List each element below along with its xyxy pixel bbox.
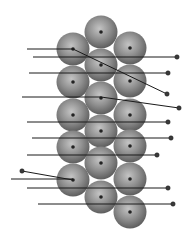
sphere-atom xyxy=(85,82,118,115)
sphere-center-dot xyxy=(71,80,75,84)
sphere-atom xyxy=(85,49,118,82)
leader-end-dot xyxy=(177,106,181,110)
sphere-atom xyxy=(114,99,147,132)
sphere-center-dot xyxy=(128,210,132,214)
sphere-packing-diagram xyxy=(0,0,189,240)
sphere-center-dot xyxy=(71,113,75,117)
sphere-center-dot xyxy=(128,113,132,117)
sphere-atom xyxy=(85,147,118,180)
sphere-center-dot xyxy=(71,145,75,149)
sphere-atom xyxy=(114,196,147,229)
sphere-center-dot xyxy=(99,30,103,34)
leader-end-dot xyxy=(166,186,170,190)
leader-end-dot xyxy=(155,153,159,157)
sphere-atom xyxy=(57,66,90,99)
sphere-center-dot xyxy=(99,63,103,67)
sphere-atom xyxy=(114,65,147,98)
sphere-atom xyxy=(114,130,147,163)
sphere-center-dot xyxy=(128,46,132,50)
sphere-center-dot xyxy=(99,129,103,133)
leader-end-dot xyxy=(166,120,170,124)
sphere-center-dot xyxy=(99,195,103,199)
sphere-center-dot xyxy=(128,144,132,148)
leader-end-dot xyxy=(169,136,173,140)
leader-end-dot xyxy=(171,202,175,206)
sphere-atom xyxy=(57,131,90,164)
sphere-atom xyxy=(114,163,147,196)
sphere-center-dot xyxy=(99,161,103,165)
sphere-atom xyxy=(114,32,147,65)
sphere-center-dot xyxy=(128,177,132,181)
leader-end-dot xyxy=(166,71,170,75)
sphere-atom xyxy=(85,181,118,214)
sphere-atom xyxy=(85,115,118,148)
leader-end-dot xyxy=(20,169,24,173)
leader-end-dot xyxy=(175,55,179,59)
sphere-atom xyxy=(57,99,90,132)
sphere-atom xyxy=(85,16,118,49)
leader-end-dot xyxy=(165,92,169,96)
sphere-center-dot xyxy=(128,79,132,83)
